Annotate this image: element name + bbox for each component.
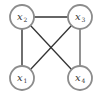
node-x3-label: x	[75, 11, 81, 22]
node-x4: x 4	[68, 66, 92, 90]
node-x1-label: x	[17, 72, 23, 83]
node-x2: x 2	[10, 5, 34, 29]
node-x4-subscript: 4	[82, 77, 86, 84]
node-x4-label: x	[75, 72, 81, 83]
node-x2-label: x	[17, 11, 23, 22]
node-x1-subscript: 1	[24, 77, 28, 84]
graph-diagram: x 2 x 3 x 1 x 4	[0, 0, 98, 106]
node-x1: x 1	[10, 66, 34, 90]
node-x3: x 3	[68, 5, 92, 29]
node-x3-subscript: 3	[82, 16, 86, 23]
node-x2-subscript: 2	[24, 16, 28, 23]
